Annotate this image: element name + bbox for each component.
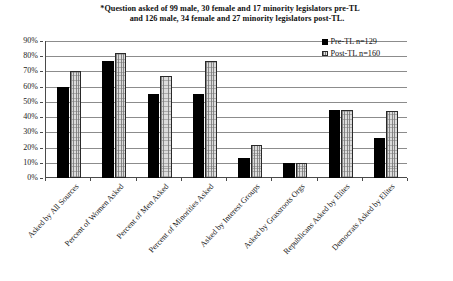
bar-post-tl (115, 53, 127, 178)
y-axis-tick-label: 60% (23, 83, 38, 91)
bar-group (362, 41, 407, 178)
bar-group (136, 41, 181, 178)
bar-pre-tl (148, 94, 160, 178)
y-axis-tick-mark (40, 41, 43, 42)
bar-post-tl (341, 110, 353, 179)
bar-group (226, 41, 271, 178)
x-axis-labels: Asked by All SourcesPercent of Women Ask… (0, 178, 453, 281)
bar-groups (45, 41, 407, 178)
y-axis-tick-mark (40, 117, 43, 118)
bar-pre-tl (329, 110, 341, 179)
y-axis-tick-label: 30% (23, 128, 38, 136)
bar-post-tl (386, 111, 398, 178)
y-axis-tick-label: 70% (23, 67, 38, 75)
bar-pre-tl (283, 163, 295, 178)
y-axis-tick-mark (40, 102, 43, 103)
bar-post-tl (205, 61, 217, 178)
y-axis-tick-label: 40% (23, 113, 38, 121)
bar-group (317, 41, 362, 178)
y-axis-tick-label: 80% (23, 52, 38, 60)
y-axis-tick-label: 50% (23, 98, 38, 106)
y-axis-tick-mark (40, 163, 43, 164)
y-axis: 90%80%70%60%50%40%30%20%10%0% (0, 41, 43, 178)
bar-post-tl (70, 71, 82, 178)
bar-pre-tl (238, 158, 250, 178)
chart-title-line-1: *Question asked of 99 male, 30 female an… (60, 4, 400, 14)
y-axis-tick-label: 10% (23, 159, 38, 167)
y-axis-tick-label: 90% (23, 37, 38, 45)
chart-title: *Question asked of 99 male, 30 female an… (60, 4, 400, 25)
y-axis-tick-mark (40, 132, 43, 133)
bar-post-tl (160, 76, 172, 178)
legend-swatch-post-tl (322, 51, 328, 57)
bar-pre-tl (57, 87, 69, 178)
y-axis-tick-mark (40, 148, 43, 149)
bar-group (271, 41, 316, 178)
bar-pre-tl (374, 138, 386, 178)
bar-group (45, 41, 90, 178)
y-axis-tick-label: 20% (23, 144, 38, 152)
legend-label: Pre-TL n=129 (331, 36, 377, 48)
y-axis-tick-mark (40, 56, 43, 57)
chart-title-line-2: and 126 male, 34 female and 27 minority … (60, 14, 400, 24)
bar-group (90, 41, 135, 178)
legend-item: Pre-TL n=129 (322, 36, 430, 48)
legend-item: Post-TL n=160 (322, 48, 430, 60)
bar-pre-tl (193, 94, 205, 178)
bar-chart: *Question asked of 99 male, 30 female an… (0, 0, 453, 281)
y-axis-tick-mark (40, 71, 43, 72)
y-axis-tick-mark (40, 87, 43, 88)
legend-label: Post-TL n=160 (331, 48, 381, 60)
chart-legend: Pre-TL n=129Post-TL n=160 (322, 36, 430, 59)
legend-swatch-pre-tl (322, 39, 328, 45)
bar-group (181, 41, 226, 178)
bar-post-tl (251, 145, 263, 178)
bar-post-tl (296, 163, 308, 178)
bar-pre-tl (102, 61, 114, 178)
